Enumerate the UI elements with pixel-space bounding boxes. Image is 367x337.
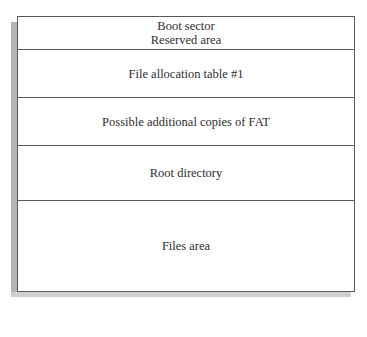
segment-label-line: File allocation table #1 xyxy=(129,67,244,81)
segment-fat-1: File allocation table #1 xyxy=(18,50,354,97)
segment-label-line: Possible additional copies of FAT xyxy=(102,115,270,129)
segment-boot-sector: Boot sector Reserved area xyxy=(18,17,354,49)
segment-fat-copies: Possible additional copies of FAT xyxy=(18,98,354,145)
segment-label-line: Files area xyxy=(162,239,210,253)
segment-files-area: Files area xyxy=(18,201,354,291)
segment-label-line: Root directory xyxy=(150,166,223,180)
segment-root-directory: Root directory xyxy=(18,146,354,200)
box-shadow-bottom xyxy=(11,292,351,297)
disk-layout-box: Boot sector Reserved area File allocatio… xyxy=(17,16,355,292)
segment-label-line: Reserved area xyxy=(151,33,221,47)
segment-label-line: Boot sector xyxy=(157,19,214,33)
